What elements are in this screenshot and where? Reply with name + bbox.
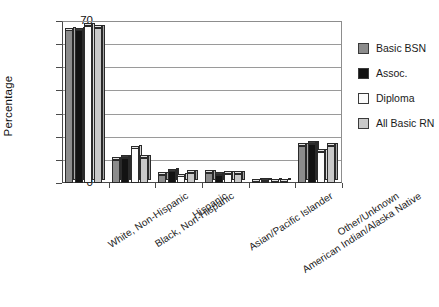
bar-side-3d	[148, 155, 151, 180]
category-label: Asian/Pacific Islander	[247, 190, 335, 252]
bar-top-3d	[317, 149, 325, 152]
legend: Basic BSNAssoc.DiplomaAll Basic RN	[358, 42, 434, 142]
bar-top-3d	[224, 171, 232, 174]
bar-top-3d	[177, 174, 185, 177]
bar-top-3d	[308, 141, 316, 144]
bar-face	[234, 174, 242, 183]
bar-top-3d	[65, 28, 73, 31]
bar	[177, 176, 185, 183]
bar	[84, 26, 92, 183]
y-axis-title-label: Percentage	[2, 46, 14, 166]
bar	[75, 30, 83, 183]
bar-top-3d	[75, 28, 83, 31]
bar-top-3d	[84, 23, 92, 26]
bar-top-3d	[205, 170, 213, 173]
legend-swatch	[358, 68, 369, 79]
bar	[121, 158, 129, 183]
bar-face	[308, 144, 316, 183]
bar-face	[112, 160, 120, 183]
bar-top-3d	[158, 172, 166, 175]
bar	[317, 152, 325, 183]
legend-item: Diploma	[358, 92, 434, 104]
bar-chart: Percentage 010203040506070 White, Non-Hi…	[0, 0, 439, 307]
bar	[187, 173, 195, 183]
x-tick-mark	[295, 183, 296, 188]
bar-top-3d	[252, 179, 260, 182]
bar-side-3d	[102, 25, 105, 180]
legend-swatch	[358, 118, 369, 129]
x-tick-mark	[155, 183, 156, 188]
bar	[205, 173, 213, 183]
bar-face	[215, 175, 223, 183]
bar	[131, 148, 139, 183]
bar	[224, 174, 232, 183]
bar	[252, 181, 260, 183]
bar-face	[140, 158, 148, 183]
bar-face	[168, 171, 176, 183]
bar-top-3d	[261, 178, 269, 181]
bar-top-3d	[112, 157, 120, 160]
legend-label: Basic BSN	[376, 42, 426, 54]
bar-top-3d	[187, 170, 195, 173]
bar-group	[158, 21, 195, 183]
bar	[308, 144, 316, 183]
bar-top-3d	[234, 171, 242, 174]
legend-label: Diploma	[376, 92, 415, 104]
bar	[112, 160, 120, 183]
bar	[327, 146, 335, 183]
bar-top-3d	[215, 172, 223, 175]
bar-face	[84, 26, 92, 183]
bar-top-3d	[121, 155, 129, 158]
bar-group	[205, 21, 242, 183]
x-tick-mark	[202, 183, 203, 188]
legend-swatch	[358, 43, 369, 54]
bar-face	[94, 28, 102, 183]
bar	[280, 181, 288, 183]
bar-face	[317, 152, 325, 183]
bar-top-3d	[271, 179, 279, 182]
bar-group	[112, 21, 149, 183]
bar-top-3d	[140, 155, 148, 158]
bar	[271, 182, 279, 184]
legend-item: All Basic RN	[358, 117, 434, 129]
bar	[94, 28, 102, 183]
bar	[298, 146, 306, 183]
bar-side-3d	[242, 171, 245, 180]
y-tick-mark	[56, 183, 62, 184]
plot-area	[62, 21, 342, 183]
bar	[234, 174, 242, 183]
bar	[168, 171, 176, 183]
category-label: White, Non-Hispanic	[106, 190, 190, 250]
legend-item: Basic BSN	[358, 42, 434, 54]
bar-side-3d	[335, 143, 338, 180]
legend-item: Assoc.	[358, 67, 434, 79]
bar-face	[121, 158, 129, 183]
bar-face	[298, 146, 306, 183]
bar-face	[187, 173, 195, 183]
bar-group	[252, 21, 289, 183]
bar-face	[75, 30, 83, 183]
bar-top-3d	[94, 25, 102, 28]
bar-face	[131, 148, 139, 183]
bar-face	[65, 30, 73, 183]
x-tick-mark	[342, 183, 343, 188]
bar-top-3d	[298, 143, 306, 146]
bar-group	[65, 21, 102, 183]
bar-side-3d	[195, 170, 198, 180]
bar-top-3d	[168, 169, 176, 172]
legend-label: All Basic RN	[376, 117, 434, 129]
bar	[261, 181, 269, 183]
legend-label: Assoc.	[376, 67, 408, 79]
bar-group	[298, 21, 335, 183]
legend-swatch	[358, 93, 369, 104]
y-axis-title: Percentage	[2, 0, 20, 46]
bar-side-3d	[288, 178, 291, 180]
x-tick-mark	[109, 183, 110, 188]
bar	[158, 175, 166, 183]
x-tick-mark	[249, 183, 250, 188]
bar	[65, 30, 73, 183]
bar-face	[158, 175, 166, 183]
bar-groups	[62, 21, 342, 183]
bar-face	[327, 146, 335, 183]
bar-face	[224, 174, 232, 183]
